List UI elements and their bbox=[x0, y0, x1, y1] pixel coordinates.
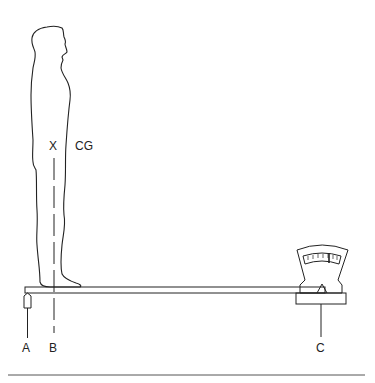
label-b: B bbox=[49, 341, 57, 355]
standing-person bbox=[31, 26, 81, 287]
cg-marker: X CG bbox=[49, 139, 93, 333]
reaction-board bbox=[25, 287, 325, 293]
cg-diagram: X CG A B C bbox=[0, 0, 375, 383]
label-c: C bbox=[316, 341, 325, 355]
cg-label: CG bbox=[75, 139, 93, 153]
label-a: A bbox=[22, 341, 30, 355]
knife-edge-support bbox=[24, 293, 31, 338]
weighing-scale bbox=[296, 245, 348, 337]
cg-x-mark: X bbox=[49, 139, 57, 153]
scale-dial bbox=[303, 253, 341, 264]
